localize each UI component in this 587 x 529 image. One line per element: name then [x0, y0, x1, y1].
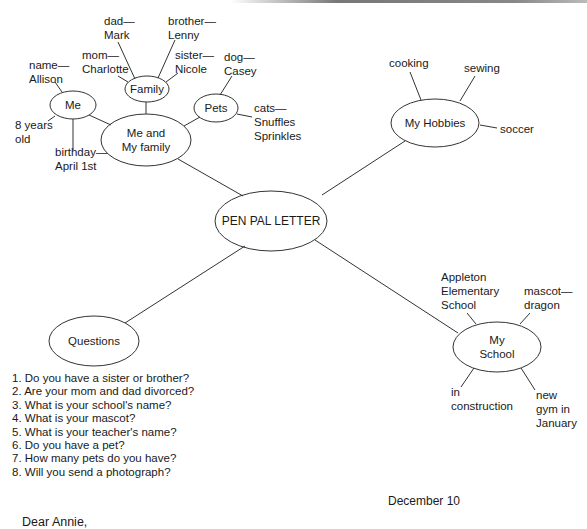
detail-construction: inconstruction — [451, 385, 513, 413]
center-label: PEN PAL LETTER — [222, 214, 321, 228]
node-me-family-line1: Me and — [127, 126, 165, 140]
node-pets-label: Pets — [204, 101, 227, 115]
detail-cooking: cooking — [389, 56, 429, 70]
node-my-hobbies: My Hobbies — [391, 99, 479, 147]
detail-bro-l1: brother— — [168, 14, 216, 28]
node-me: Me — [50, 91, 96, 119]
node-questions-label: Questions — [68, 334, 120, 348]
detail-age: 8 yearsold — [15, 118, 53, 146]
node-family-label: Family — [130, 82, 164, 96]
detail-dog: dog—Casey — [224, 50, 257, 78]
detail-school-l2: Elementary — [441, 284, 499, 298]
questions-list: 1. Do you have a sister or brother? 2. A… — [12, 372, 194, 479]
detail-mascot: mascot—dragon — [524, 284, 573, 312]
detail-school-name: AppletonElementarySchool — [441, 270, 499, 312]
detail-sewing: sewing — [464, 61, 500, 75]
detail-mascot-l1: mascot— — [524, 284, 573, 298]
node-me-label: Me — [65, 98, 81, 112]
node-school-line1: My — [489, 333, 504, 347]
detail-gym-l1: new — [536, 388, 577, 402]
detail-cats: cats—SnufflesSprinkles — [254, 101, 301, 143]
node-questions: Questions — [49, 316, 139, 366]
node-hobbies-label: My Hobbies — [405, 116, 466, 130]
detail-cats-l2: Snuffles — [254, 115, 301, 129]
detail-con-l2: construction — [451, 399, 513, 413]
detail-cats-l3: Sprinkles — [254, 129, 301, 143]
question-item: 4. What is your mascot? — [12, 412, 194, 425]
detail-sis-l2: Nicole — [175, 62, 214, 76]
detail-bday-l1: birthday— — [55, 145, 107, 159]
letter-date: December 10 — [388, 494, 460, 508]
detail-bro-l2: Lenny — [168, 28, 216, 42]
node-me-and-my-family: Me and My family — [101, 114, 191, 166]
node-pets: Pets — [194, 94, 238, 122]
question-item: 7. How many pets do you have? — [12, 452, 194, 465]
detail-name-l1: name— — [29, 58, 69, 72]
detail-mom-l2: Charlotte — [82, 62, 129, 76]
detail-cats-l1: cats— — [254, 101, 301, 115]
question-item: 5. What is your teacher's name? — [12, 426, 194, 439]
detail-soccer: soccer — [500, 122, 534, 136]
detail-dad-l1: dad— — [104, 14, 135, 28]
detail-gym-l3: January — [536, 416, 577, 430]
detail-sister: sister—Nicole — [175, 48, 214, 76]
question-item: 3. What is your school's name? — [12, 399, 194, 412]
detail-age-l1: 8 years — [15, 118, 53, 132]
detail-dad-l2: Mark — [104, 28, 135, 42]
node-family: Family — [125, 76, 169, 102]
detail-mascot-l2: dragon — [524, 298, 573, 312]
letter-greeting: Dear Annie, — [22, 515, 87, 529]
detail-age-l2: old — [15, 132, 53, 146]
detail-dad: dad—Mark — [104, 14, 135, 42]
detail-dog-l1: dog— — [224, 50, 257, 64]
detail-brother: brother—Lenny — [168, 14, 216, 42]
detail-mom: mom—Charlotte — [82, 48, 129, 76]
node-pen-pal-letter: PEN PAL LETTER — [215, 191, 327, 251]
node-me-family-line2: My family — [122, 140, 171, 154]
detail-name: name—Allison — [29, 58, 69, 86]
detail-name-l2: Allison — [29, 72, 69, 86]
detail-dog-l2: Casey — [224, 64, 257, 78]
node-school-line2: School — [479, 347, 514, 361]
question-item: 6. Do you have a pet? — [12, 439, 194, 452]
detail-bday-l2: April 1st — [55, 159, 107, 173]
node-my-school: My School — [453, 322, 541, 372]
detail-mom-l1: mom— — [82, 48, 129, 62]
question-item: 2. Are your mom and dad divorced? — [12, 385, 194, 398]
detail-gym-l2: gym in — [536, 402, 577, 416]
question-item: 1. Do you have a sister or brother? — [12, 372, 194, 385]
detail-birthday: birthday—April 1st — [55, 145, 107, 173]
detail-school-l3: School — [441, 298, 499, 312]
detail-new-gym: newgym inJanuary — [536, 388, 577, 430]
detail-con-l1: in — [451, 385, 513, 399]
question-item: 8. Will you send a photograph? — [12, 466, 194, 479]
detail-school-l1: Appleton — [441, 270, 499, 284]
detail-sis-l1: sister— — [175, 48, 214, 62]
